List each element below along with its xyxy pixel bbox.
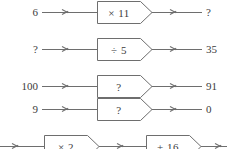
- row-4-operation-label: ?: [97, 98, 141, 121]
- machine-row-1: 6 × 11 ?: [0, 0, 227, 24]
- row-3-operation-label: ?: [97, 75, 141, 98]
- row-2-output-value: 35: [206, 37, 226, 61]
- row-3-input-arrowhead: [62, 82, 69, 89]
- row-3-input-value: 100: [2, 74, 38, 98]
- row-5-operation-label-1: × 2: [44, 135, 88, 149]
- row-2-input-value: ?: [10, 37, 38, 61]
- row-5-arrowhead-b: [117, 142, 124, 149]
- row-2-input-wire: [42, 49, 97, 50]
- row-4-output-value: 0: [206, 97, 226, 121]
- row-3-input-wire: [42, 86, 97, 87]
- row-5-operation-label-2: + 16: [146, 135, 190, 149]
- machine-row-5-clipped: × 2 + 16: [0, 134, 227, 149]
- row-4-output-wire: [152, 109, 202, 110]
- row-3-output-arrowhead: [170, 82, 177, 89]
- row-2-input-arrowhead: [62, 45, 69, 52]
- row-1-operation-label: × 11: [97, 1, 141, 24]
- row-4-output-arrowhead: [170, 105, 177, 112]
- row-2-operation-label: ÷ 5: [97, 38, 141, 61]
- function-machine-diagram: 6 × 11 ? ? ÷ 5 35 100 ? 9: [0, 0, 227, 149]
- row-4-input-value: 9: [10, 97, 38, 121]
- row-1-input-arrowhead: [62, 8, 69, 15]
- machine-row-3: 100 ? 91: [0, 74, 227, 98]
- row-2-output-arrowhead: [170, 45, 177, 52]
- row-1-input-wire: [42, 12, 97, 13]
- row-5-wire-a: [0, 146, 44, 147]
- row-1-output-wire: [152, 12, 202, 13]
- row-5-arrowhead-c: [215, 142, 222, 149]
- row-1-output-arrowhead: [170, 8, 177, 15]
- row-4-input-wire: [42, 109, 97, 110]
- machine-row-4: 9 ? 0: [0, 97, 227, 121]
- row-1-output-value: ?: [206, 0, 226, 24]
- row-2-output-wire: [152, 49, 202, 50]
- row-5-wire-c: [201, 146, 227, 147]
- machine-row-2: ? ÷ 5 35: [0, 37, 227, 61]
- row-3-output-wire: [152, 86, 202, 87]
- row-5-arrowhead-a: [12, 142, 19, 149]
- row-1-input-value: 6: [10, 0, 38, 24]
- row-3-output-value: 91: [206, 74, 227, 98]
- row-4-input-arrowhead: [62, 105, 69, 112]
